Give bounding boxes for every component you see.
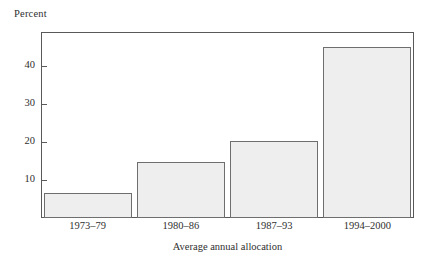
plot-area: [41, 32, 414, 218]
x-axis-caption: Average annual allocation: [41, 241, 414, 252]
y-axis-caption: Percent: [14, 8, 47, 19]
x-axis-tick-label: 1987–93: [228, 220, 321, 231]
y-axis-tick-label: 40: [25, 59, 36, 70]
y-axis-tick-mark: [41, 104, 47, 105]
y-axis-tick-label: 30: [25, 97, 36, 108]
bar-chart-figure: Percent 10203040 1973–791980–861987–9319…: [0, 0, 431, 267]
y-axis-tick-label: 10: [25, 173, 36, 184]
y-axis-tick-mark: [41, 66, 47, 67]
bar-1973-79: [44, 193, 132, 218]
bar-1980-86: [137, 162, 225, 218]
bar-1994-2000: [323, 47, 411, 218]
y-axis-tick-mark: [41, 142, 47, 143]
bar-1987-93: [230, 141, 318, 218]
x-axis-tick-label: 1994–2000: [321, 220, 414, 231]
x-axis-tick-label: 1973–79: [41, 220, 134, 231]
y-axis-tick-labels: 10203040: [0, 32, 35, 218]
y-axis-tick-mark: [41, 180, 47, 181]
x-axis-tick-label: 1980–86: [134, 220, 227, 231]
x-axis-tick-labels: 1973–791980–861987–931994–2000: [41, 220, 414, 238]
y-axis-tick-label: 20: [25, 135, 36, 146]
